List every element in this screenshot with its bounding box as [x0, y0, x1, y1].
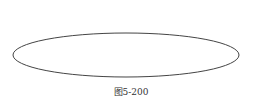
ellipse-shape	[0, 0, 262, 98]
figure: 图5-200	[0, 0, 262, 98]
figure-caption: 图5-200	[0, 85, 262, 98]
